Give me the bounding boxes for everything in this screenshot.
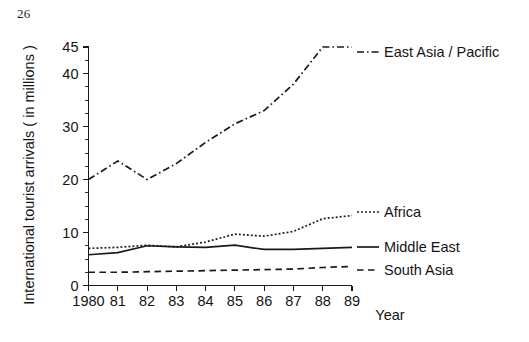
x-tick-label-85: 85	[227, 293, 243, 309]
chart-figure: 01020304045 International tourist arriva…	[0, 0, 529, 342]
x-axis-title: Year	[375, 307, 404, 323]
legend-item-middle-east: Middle East	[357, 239, 460, 255]
series-line-middle-east	[89, 245, 353, 255]
legend: East Asia / Pacific Africa Middle East S…	[357, 44, 499, 278]
x-axis: 1980818283848586878889 Year	[72, 286, 404, 324]
y-tick-label-0: 0	[70, 278, 78, 294]
data-series-group	[89, 47, 353, 272]
x-tick-label-88: 88	[315, 293, 331, 309]
x-tick-label-81: 81	[110, 293, 126, 309]
legend-label-east-asia-pacific: East Asia / Pacific	[384, 44, 499, 60]
series-line-africa	[89, 216, 353, 249]
x-tick-label-84: 84	[198, 293, 214, 309]
y-axis: 01020304045 International tourist arriva…	[21, 39, 89, 305]
tourist-arrivals-line-chart: 01020304045 International tourist arriva…	[0, 0, 529, 342]
x-axis-ticks	[89, 286, 353, 291]
y-tick-label-10: 10	[62, 225, 78, 241]
y-tick-label-20: 20	[62, 172, 78, 188]
y-axis-title: International tourist arrivals ( in mill…	[21, 45, 37, 304]
x-tick-label-86: 86	[256, 293, 272, 309]
x-tick-label-89: 89	[344, 293, 360, 309]
legend-item-africa: Africa	[357, 204, 422, 220]
y-tick-label-45: 45	[62, 39, 78, 55]
legend-label-south-asia: South Asia	[384, 262, 454, 278]
legend-label-middle-east: Middle East	[384, 239, 460, 255]
legend-item-east-asia-pacific: East Asia / Pacific	[357, 44, 499, 60]
legend-label-africa: Africa	[384, 204, 422, 220]
legend-item-south-asia: South Asia	[357, 262, 454, 278]
x-axis-tick-labels: 1980818283848586878889	[72, 293, 360, 309]
x-tick-label-82: 82	[139, 293, 155, 309]
y-tick-label-40: 40	[62, 66, 78, 82]
y-tick-label-30: 30	[62, 119, 78, 135]
x-tick-label-1980: 1980	[72, 293, 104, 309]
series-line-south-asia	[89, 266, 353, 272]
x-tick-label-87: 87	[285, 293, 301, 309]
x-tick-label-83: 83	[168, 293, 184, 309]
series-line-east-asia-pacific	[89, 47, 353, 180]
y-axis-tick-labels: 01020304045	[62, 39, 78, 294]
